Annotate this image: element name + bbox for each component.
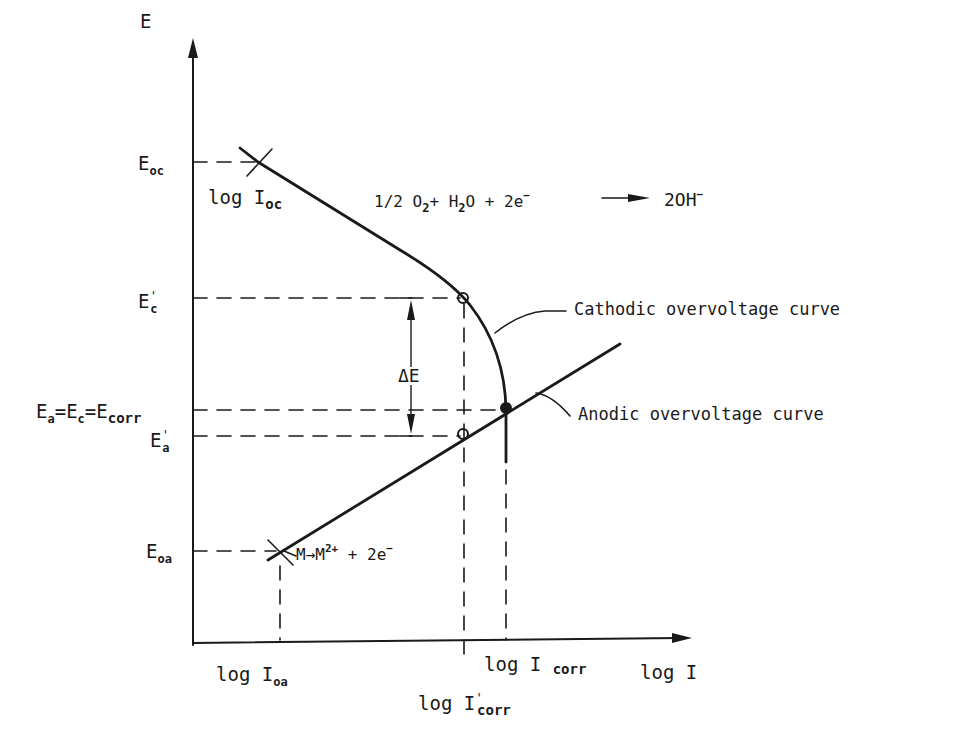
tick-E-c-prime: E'c (138, 289, 158, 315)
tick-log-I-corr: log I corr (484, 655, 586, 676)
delta-E-up-arrow-icon (407, 300, 415, 320)
delta-E-label: ΔE (398, 367, 420, 385)
cathodic-reaction-product: 2OH− (664, 189, 703, 209)
cathodic-label-leader (495, 311, 566, 333)
anodic-overvoltage-curve (268, 344, 620, 560)
cathodic-reaction-equation: 1/2 O2+ H2O + 2e− (374, 190, 530, 214)
cathodic-reaction-arrowhead-icon (628, 194, 650, 202)
tick-E-oa: Eoa (146, 542, 172, 565)
x-axis-arrowhead (672, 633, 692, 643)
anodic-label-leader (536, 393, 570, 416)
y-axis-arrowhead (188, 38, 198, 58)
tick-log-I-corr-prime: log I'corr (418, 691, 511, 717)
cathodic-curve-label: Cathodic overvoltage curve (574, 301, 840, 318)
point-E-a-prime (458, 429, 468, 439)
tick-E-oc: Eoc (138, 154, 164, 177)
anodic-curve-label: Anodic overvoltage curve (578, 406, 824, 423)
x-axis-label: log I (640, 663, 697, 682)
evans-diagram: E log I Eoc E'c Ea=Ec=Ecorr E'a Eoa log … (0, 0, 958, 742)
anodic-reaction-pointer (284, 551, 296, 556)
delta-E-down-arrow-icon (407, 414, 415, 434)
x-axis (193, 638, 680, 643)
y-axis-label: E (140, 12, 151, 31)
diagram-canvas (0, 0, 958, 742)
tick-log-I-oa: log Ioa (216, 665, 288, 688)
label-log-I-oc: log Ioc (208, 188, 282, 211)
tick-E-a-prime: E'a (150, 428, 170, 454)
tick-E-corr: Ea=Ec=Ecorr (36, 402, 141, 425)
point-E-corr (501, 403, 511, 413)
anodic-reaction-equation: M→M2+ + 2e− (296, 543, 393, 563)
